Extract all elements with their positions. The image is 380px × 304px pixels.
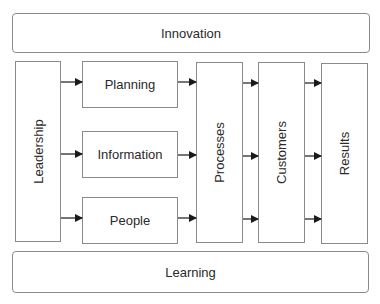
flow-arrows	[0, 0, 380, 304]
